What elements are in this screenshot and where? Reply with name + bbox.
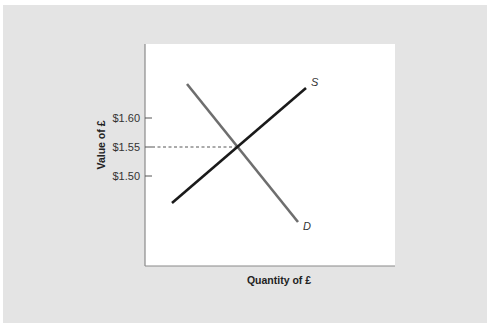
- supply-label: S: [311, 76, 319, 88]
- y-tick-label: $1.60: [112, 112, 140, 124]
- supply-demand-chart: $1.60 $1.55 $1.50 S D Quantity of £ Valu…: [0, 0, 491, 326]
- x-axis-title: Quantity of £: [247, 274, 311, 286]
- y-tick-label: $1.55: [112, 141, 140, 153]
- y-axis-title: Value of £: [95, 120, 107, 169]
- plot-area: [145, 44, 395, 266]
- y-tick-label: $1.50: [112, 170, 140, 182]
- demand-label: D: [303, 220, 311, 232]
